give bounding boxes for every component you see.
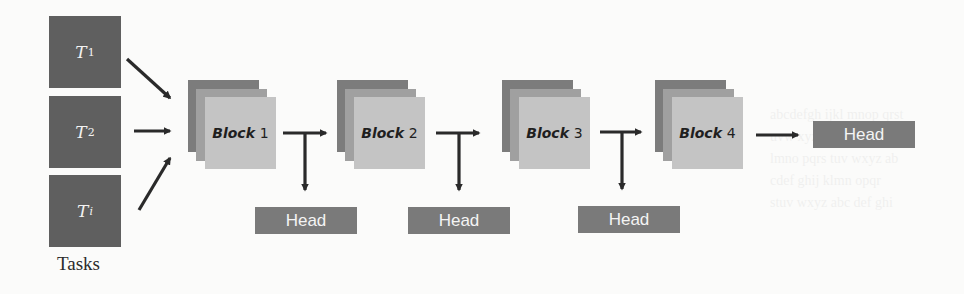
arrows-layer (0, 0, 964, 294)
arrow-task1-to-block1 (127, 59, 170, 98)
arrow-taski-to-block1 (139, 158, 170, 210)
